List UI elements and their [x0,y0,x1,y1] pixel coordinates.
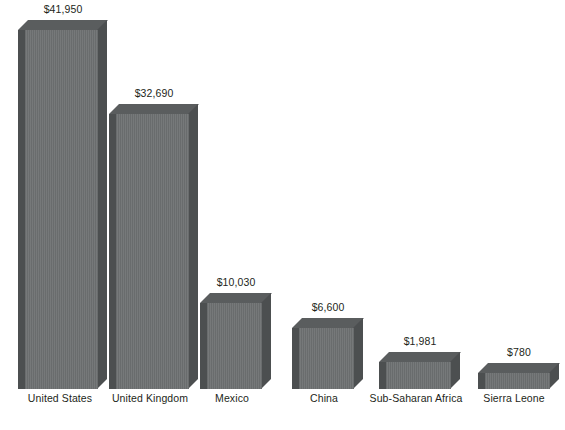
bar-side-face [261,293,272,389]
bar-side-face [549,363,560,389]
bar-front-face [109,114,189,389]
bar-front-face [292,328,354,389]
bar-front-face [200,303,262,389]
bar-category-label-5: Sierra Leone [470,392,558,404]
bar-value-label-0: $41,950 [18,3,108,15]
bar-front-face [478,373,550,389]
bar-value-label-3: $6,600 [292,301,364,313]
bar-side-face [353,318,364,389]
bar-category-label-1: United Kingdom [103,392,197,404]
bar-side-face [97,20,108,389]
bar-left-edge [18,30,25,389]
bar-category-label-2: Mexico [193,392,271,404]
bar-3[interactable] [292,318,364,389]
bar-category-label-0: United States [14,392,106,404]
bar-category-label-3: China [285,392,363,404]
bar-value-label-2: $10,030 [200,276,272,288]
bar-side-face [188,104,199,389]
chart-plot-area: $41,950United States$32,690United Kingdo… [0,0,565,430]
bar-4[interactable] [379,352,461,389]
bar-left-edge [292,328,299,389]
bar-category-label-4: Sub-Saharan Africa [368,392,464,404]
bar-value-label-5: $780 [478,346,560,358]
bar-front-face [379,362,451,389]
bar-left-edge [379,362,386,389]
bar-0[interactable] [18,20,108,389]
bar-chart: $41,950United States$32,690United Kingdo… [0,0,565,430]
bar-5[interactable] [478,363,560,389]
bar-left-edge [109,114,116,389]
bar-front-face [18,30,98,389]
bar-side-face [450,352,461,389]
bar-left-edge [200,303,207,389]
bar-left-edge [478,373,485,389]
bar-1[interactable] [109,104,199,389]
bar-value-label-4: $1,981 [379,335,461,347]
bar-2[interactable] [200,293,272,389]
bar-value-label-1: $32,690 [109,87,199,99]
